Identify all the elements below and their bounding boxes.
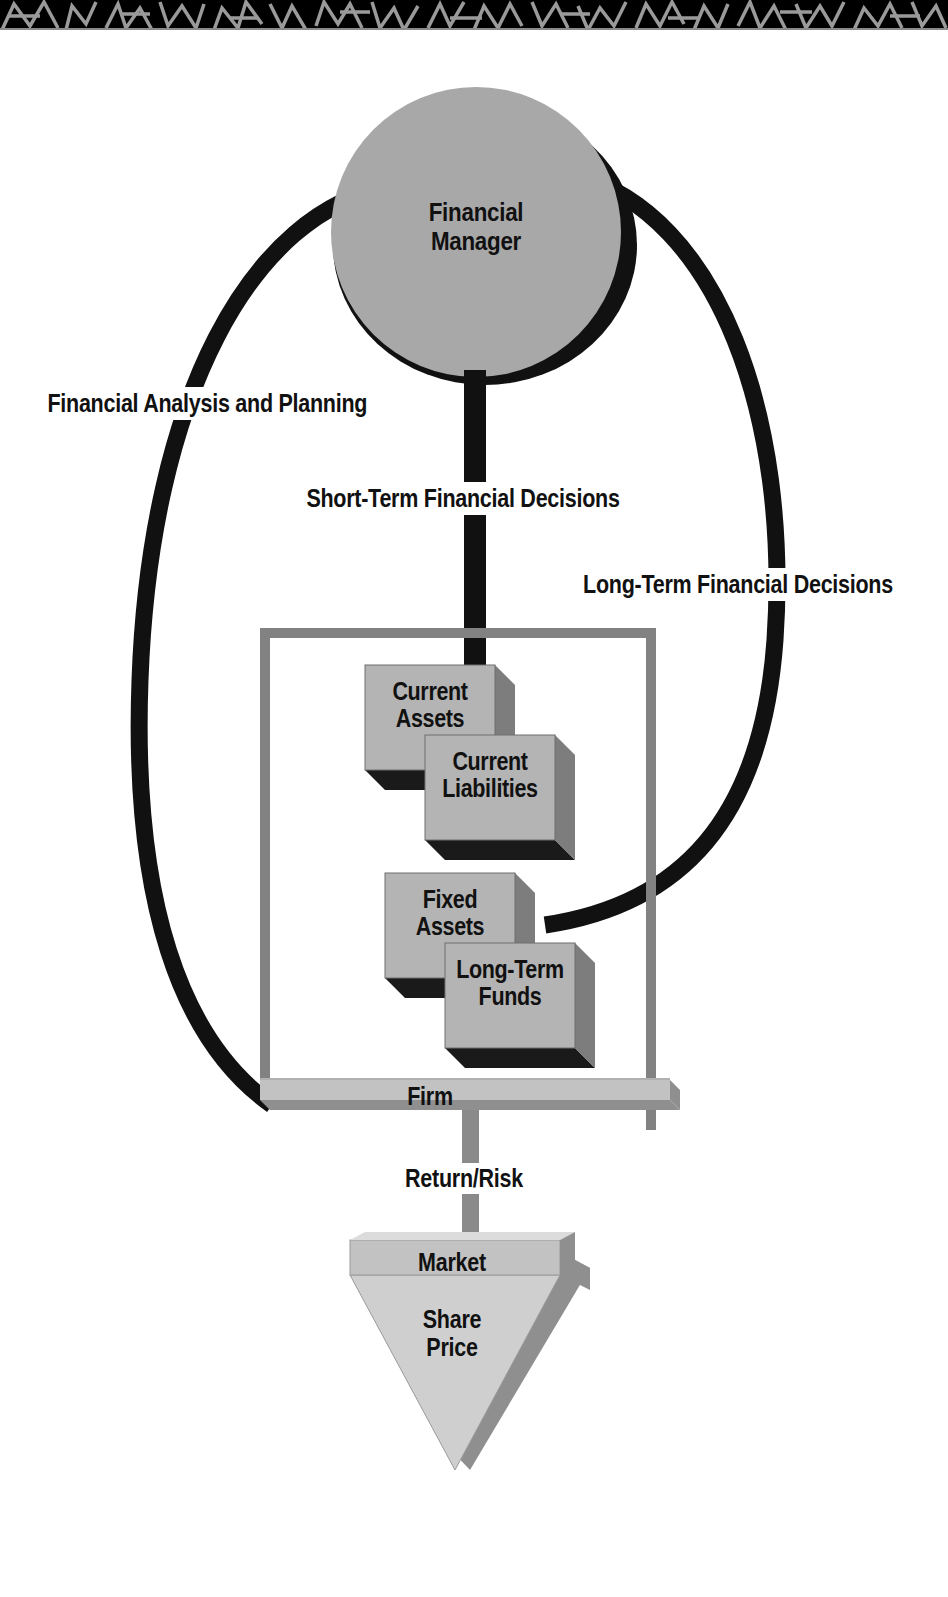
box-label-long-term-funds: Long-Term Funds (456, 956, 564, 1010)
fixed-assets-line1: Fixed (416, 886, 484, 913)
financial-manager-line1: Financial (429, 198, 524, 227)
long-term-funds-line2: Funds (456, 983, 564, 1010)
firm-label: Firm (407, 1082, 453, 1111)
label-financial-analysis-and-planning: Financial Analysis and Planning (44, 387, 371, 420)
financial-manager-label: Financial Manager (429, 198, 524, 256)
share-price-line2: Price (423, 1333, 481, 1361)
current-liabilities-line1: Current (442, 748, 537, 775)
fixed-assets-line2: Assets (416, 913, 484, 940)
financial-manager-line2: Manager (429, 227, 524, 256)
current-assets-line1: Current (392, 678, 467, 705)
current-liabilities-line2: Liabilities (442, 775, 537, 802)
current-assets-line2: Assets (392, 705, 467, 732)
firm-bar (260, 1078, 680, 1110)
diagram-page: Financial Manager Financial Analysis and… (0, 0, 948, 1597)
connector-short-term (464, 370, 486, 665)
box-label-current-liabilities: Current Liabilities (442, 748, 537, 802)
label-long-term-financial-decisions: Long-Term Financial Decisions (579, 568, 897, 601)
label-short-term-financial-decisions: Short-Term Financial Decisions (302, 482, 624, 515)
share-price-label: Share Price (423, 1305, 481, 1361)
share-price-line1: Share (423, 1305, 481, 1333)
box-label-fixed-assets: Fixed Assets (416, 886, 484, 940)
label-return-risk: Return/Risk (400, 1163, 528, 1194)
long-term-funds-line1: Long-Term (456, 956, 564, 983)
market-label: Market (418, 1248, 486, 1277)
box-label-current-assets: Current Assets (392, 678, 467, 732)
